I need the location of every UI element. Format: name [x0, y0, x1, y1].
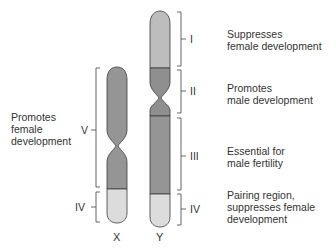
x-brackets: [91, 68, 100, 222]
x-region-v: [107, 67, 127, 189]
y-brackets: [177, 12, 186, 225]
numeral-i: I: [190, 33, 193, 45]
y-chromosome: [150, 11, 170, 227]
numeral-iv-x: IV: [75, 201, 85, 213]
y-region-i: [150, 11, 170, 68]
y-region-iv: [150, 194, 170, 227]
x-region-iv: [107, 189, 127, 223]
bracket-i: [177, 12, 186, 66]
bracket-iv-y: [177, 194, 186, 225]
sex-chromosome-diagram: I II III IV V IV X Y Suppresses female d…: [0, 0, 336, 251]
bracket-ii: [177, 70, 186, 113]
bracket-v: [91, 68, 100, 187]
x-chromosome: [107, 67, 127, 223]
numeral-ii: II: [190, 85, 196, 97]
numeral-iii: III: [190, 150, 199, 162]
bracket-iv-x: [91, 192, 100, 222]
numeral-iv-y: IV: [190, 203, 200, 215]
numeral-v: V: [81, 124, 88, 136]
y-chromosome-label: Y: [156, 231, 163, 243]
y-region-ii: [150, 68, 170, 116]
bracket-iii: [177, 118, 186, 190]
y-region-iii: [150, 116, 170, 194]
x-chromosome-label: X: [113, 231, 120, 243]
